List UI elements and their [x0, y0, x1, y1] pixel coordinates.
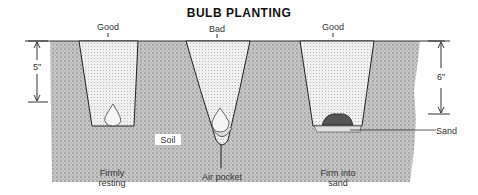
hole3-top-label: Good — [318, 22, 348, 32]
hole2-top-label: Bad — [202, 24, 232, 34]
hole1-top-label: Good — [93, 22, 123, 32]
hole2-bottom-line1: Air pocket — [192, 172, 252, 182]
hole1-bottom-label: Firmly resting — [90, 168, 134, 188]
sand-label: Sand — [436, 126, 466, 136]
sand-layer — [314, 126, 361, 132]
hole3-bottom-line1: Firm into — [316, 168, 360, 178]
hole1-bottom-line2: resting — [90, 178, 134, 188]
dimension-right-label: 6" — [433, 72, 449, 82]
hole3-bottom-line2: sand — [316, 178, 360, 188]
hole2-bottom-label: Air pocket — [192, 172, 252, 182]
soil-label: Soil — [155, 135, 181, 145]
hole1-bottom-line1: Firmly — [90, 168, 134, 178]
dimension-left-label: 5" — [29, 62, 45, 72]
bulb-planting-diagram — [0, 0, 478, 195]
hole3-bottom-label: Firm into sand — [316, 168, 360, 188]
